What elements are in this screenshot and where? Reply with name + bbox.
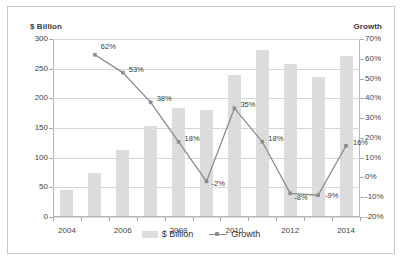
left-axis-tick-label: 50 [18, 182, 48, 191]
left-axis-tick-label: 300 [18, 34, 48, 43]
right-axis-tick-label: 0% [365, 172, 399, 181]
left-axis-tick-label: 250 [18, 64, 48, 73]
left-axis-tick-label: 150 [18, 123, 48, 132]
growth-point-label: 35% [240, 100, 255, 109]
right-axis-tickmark [360, 39, 364, 40]
x-axis-tickmark [360, 217, 361, 221]
growth-line-path [95, 55, 346, 195]
right-axis-tick-label: 40% [365, 93, 399, 102]
growth-point-label: -8% [294, 193, 307, 202]
right-axis-tickmark [360, 59, 364, 60]
right-axis-tickmark [360, 177, 364, 178]
right-axis-tickmark [360, 118, 364, 119]
growth-point-label: 38% [157, 94, 172, 103]
right-axis-tickmark [360, 197, 364, 198]
growth-marker [177, 140, 181, 144]
left-axis-tick-label: 200 [18, 93, 48, 102]
growth-marker [344, 144, 348, 148]
growth-marker [288, 192, 292, 196]
right-axis-title: Growth [353, 22, 382, 31]
growth-marker [121, 71, 125, 75]
legend-item-line-label: Growth [231, 229, 260, 239]
growth-point-label: 18% [268, 134, 283, 143]
right-axis-tickmark [360, 98, 364, 99]
growth-line-series [53, 39, 360, 218]
right-axis-tick-label: 70% [365, 34, 399, 43]
growth-marker [261, 140, 265, 144]
chart-legend: $ Billion Growth [8, 229, 394, 239]
left-axis-title: $ Billion [30, 22, 62, 31]
right-axis-tickmark [360, 79, 364, 80]
growth-marker [93, 53, 97, 57]
legend-item-bar-label: $ Billion [162, 229, 194, 239]
left-axis-tick-label: 0 [18, 212, 48, 221]
line-marker-swatch-icon [209, 231, 227, 238]
right-axis-tick-label: -10% [365, 192, 399, 201]
right-axis-tick-label: 20% [365, 133, 399, 142]
right-axis-tick-label: 60% [365, 54, 399, 63]
growth-point-label: 53% [129, 65, 144, 74]
plot-area: 050100150200250300 -20%-10%0%10%20%30%40… [53, 39, 360, 217]
right-axis-tick-label: -20% [365, 212, 399, 221]
growth-point-label: -9% [325, 191, 338, 200]
right-axis-tickmark [360, 158, 364, 159]
growth-marker [205, 180, 209, 184]
growth-marker [316, 193, 320, 197]
chart-container: $ Billion Growth 050100150200250300 -20%… [7, 6, 395, 254]
left-axis-tick-label: 100 [18, 153, 48, 162]
legend-item-bar[interactable]: $ Billion [142, 229, 194, 239]
growth-point-label: 18% [185, 134, 200, 143]
growth-line-markers [93, 53, 348, 197]
right-axis-tick-label: 30% [365, 113, 399, 122]
right-axis-tick-label: 50% [365, 74, 399, 83]
legend-item-line[interactable]: Growth [209, 229, 260, 239]
bar-swatch-icon [142, 231, 158, 238]
growth-marker [149, 101, 153, 105]
growth-point-label: -2% [212, 179, 225, 188]
growth-marker [233, 106, 237, 110]
growth-point-label: 62% [101, 42, 116, 51]
growth-point-label: 16% [353, 138, 368, 147]
right-axis-tick-label: 10% [365, 153, 399, 162]
